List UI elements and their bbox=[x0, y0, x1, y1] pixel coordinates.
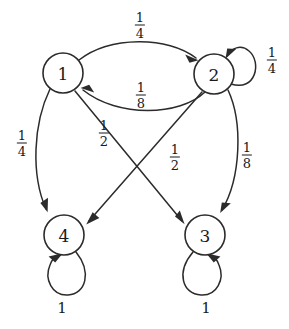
edge-label-2-self-loop: 1 4 bbox=[267, 46, 277, 75]
edge-1-to-4-path bbox=[36, 89, 50, 209]
edge-3-self-loop bbox=[183, 252, 221, 295]
edge-label-1-to-4: 1 4 bbox=[17, 129, 27, 158]
edge-label-2-self-loop-denominator: 4 bbox=[267, 61, 277, 75]
edge-4-self-loop bbox=[48, 252, 85, 295]
node-1-label: 1 bbox=[58, 64, 69, 84]
edge-label-1-to-3: 1 2 bbox=[170, 143, 180, 172]
edge-label-1-to-2: 1 4 bbox=[135, 11, 145, 40]
edge-label-3-self-loop: 1 bbox=[201, 301, 211, 316]
edge-label-2-to-1-numerator: 1 bbox=[136, 81, 146, 96]
edge-label-1-to-2-denominator: 4 bbox=[135, 26, 145, 40]
node-2-label: 2 bbox=[209, 65, 220, 85]
edge-1-to-3-arrowhead bbox=[175, 210, 185, 224]
edge-label-2-to-3: 1 8 bbox=[242, 141, 252, 170]
edge-label-1-to-4-denominator: 4 bbox=[17, 144, 27, 158]
edge-2-self-loop-arrowhead bbox=[226, 48, 237, 58]
edge-1-to-4-arrowhead bbox=[40, 198, 48, 213]
edge-1-to-4 bbox=[36, 89, 50, 212]
edge-label-1-to-4-numerator: 1 bbox=[17, 129, 27, 144]
node-4[interactable]: 4 bbox=[44, 215, 84, 255]
edge-label-2-self-loop-numerator: 1 bbox=[267, 46, 277, 61]
edge-2-to-1-arrowhead bbox=[81, 85, 95, 93]
edge-label-1-to-2-numerator: 1 bbox=[135, 11, 145, 26]
edge-label-4-self-loop: 1 bbox=[57, 301, 67, 316]
edge-label-2-to-4-numerator: 1 bbox=[99, 119, 109, 134]
node-4-label: 4 bbox=[59, 226, 70, 246]
edge-label-2-to-3-denominator: 8 bbox=[242, 156, 252, 170]
state-diagram-canvas: 1 2 3 4 1 4 1 8 1 4 1 4 1 2 1 bbox=[0, 0, 289, 329]
edge-1-to-3-path bbox=[75, 91, 182, 221]
edge-2-to-4 bbox=[86, 92, 202, 224]
node-1[interactable]: 1 bbox=[43, 53, 83, 93]
edge-2-to-4-path bbox=[89, 92, 202, 221]
edge-label-2-to-4: 1 2 bbox=[99, 119, 109, 148]
node-3[interactable]: 3 bbox=[185, 215, 225, 255]
edge-label-2-to-1: 1 8 bbox=[136, 81, 146, 110]
edge-1-to-2-path bbox=[79, 42, 196, 60]
edge-1-to-3 bbox=[75, 91, 185, 224]
edge-label-1-to-3-denominator: 2 bbox=[170, 158, 180, 172]
edge-2-to-3-path bbox=[222, 90, 238, 210]
node-3-label: 3 bbox=[200, 226, 211, 246]
edge-label-2-to-1-denominator: 8 bbox=[136, 96, 146, 110]
edge-label-1-to-3-numerator: 1 bbox=[170, 143, 180, 158]
edge-2-to-4-arrowhead bbox=[86, 212, 99, 224]
edge-label-2-to-4-denominator: 2 bbox=[99, 134, 109, 148]
edge-2-to-3 bbox=[220, 90, 238, 213]
edge-2-to-3-arrowhead bbox=[220, 203, 231, 213]
edge-label-2-to-3-numerator: 1 bbox=[242, 141, 252, 156]
node-2[interactable]: 2 bbox=[194, 54, 234, 94]
edge-1-to-2 bbox=[79, 42, 199, 63]
